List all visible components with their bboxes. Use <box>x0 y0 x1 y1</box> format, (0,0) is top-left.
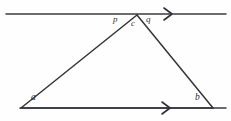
angle-label-p: p <box>113 15 118 24</box>
vertex-label-a: a <box>31 93 36 103</box>
vertex-label-b: b <box>195 93 200 103</box>
vertex-label-c: c <box>131 19 135 28</box>
triangle-side-cb <box>137 15 213 108</box>
angle-label-q: q <box>146 15 151 24</box>
geometry-diagram: a b c p q <box>0 0 231 121</box>
triangle-side-ac <box>21 15 137 108</box>
